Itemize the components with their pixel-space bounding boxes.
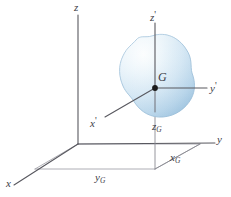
axis-label-x-prime: x': [90, 116, 97, 129]
axis-label-y-prime: y': [210, 81, 217, 94]
label-xG: xG: [170, 152, 180, 165]
axis-label-z-prime: z': [150, 10, 156, 23]
axis-label-z: z: [74, 2, 78, 13]
axis-label-y: y: [217, 134, 222, 145]
axis-label-x: x: [6, 178, 11, 189]
label-zG: zG: [152, 121, 162, 134]
label-mass-center-G: G: [158, 71, 167, 83]
label-yG: yG: [95, 172, 105, 185]
mass-center-point: [152, 85, 158, 91]
x-axis: [14, 144, 78, 185]
rigid-body-coordinate-figure: z x y z' y' x' G zG yG xG: [0, 0, 231, 197]
figure-canvas: [0, 0, 231, 197]
